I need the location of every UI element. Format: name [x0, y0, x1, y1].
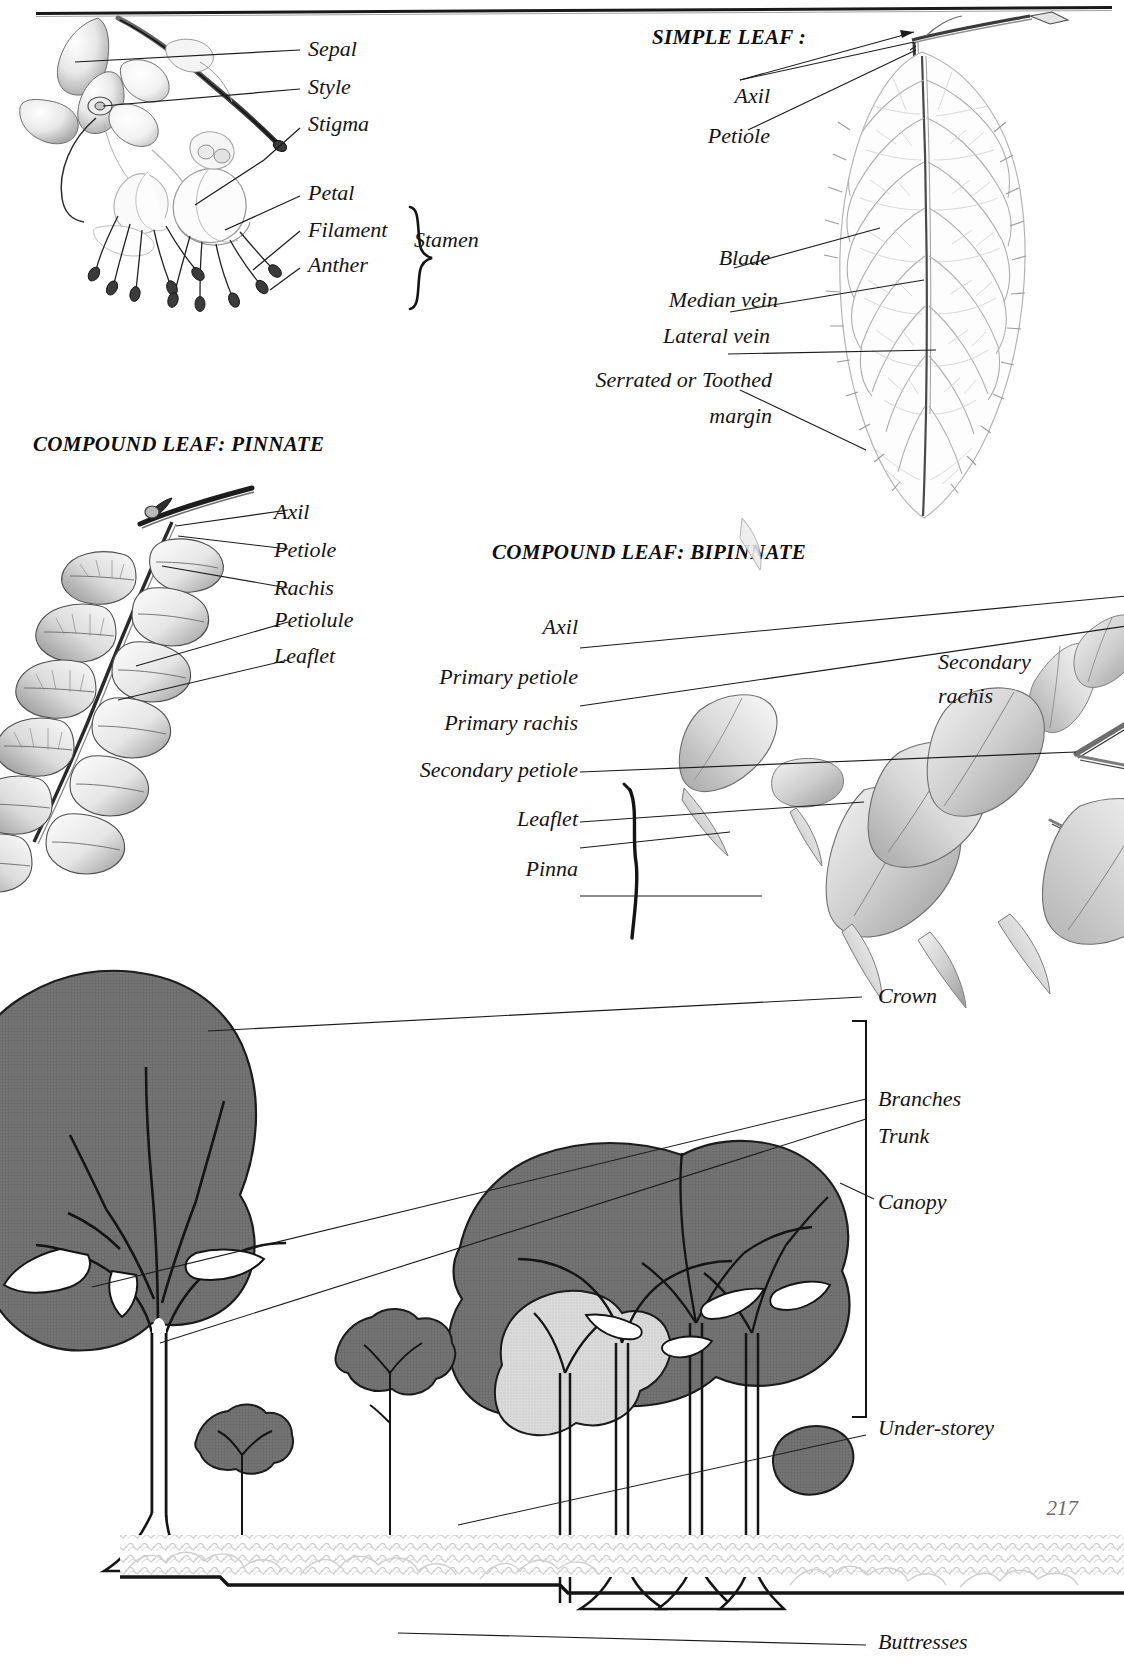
forest-profile-illustration — [0, 903, 1124, 1663]
tree-cluster-low-leaf-mass — [773, 1426, 853, 1494]
forest-label-buttresses: Buttresses — [878, 1630, 968, 1655]
bipinnate-label-leaflet: Leaflet — [517, 807, 578, 832]
forest-label-canopy: Canopy — [878, 1190, 946, 1215]
bipinnate-label-secondary-rachis-line1: Secondary — [938, 650, 1031, 675]
forest-label-crown: Crown — [878, 984, 937, 1009]
botany-plate-page: Sepal Style Stigma Petal Filament Anther… — [0, 0, 1124, 1663]
flower-illustration — [0, 0, 560, 330]
flower-label-sepal: Sepal — [308, 37, 357, 62]
flower-label-stamen-group: Stamen — [414, 228, 479, 253]
tree-cluster-light-crown — [495, 1291, 671, 1435]
simple-leaf-label-blade: Blade — [719, 246, 770, 271]
pinnate-label-petiolule: Petiolule — [274, 608, 353, 633]
simple-leaf-label-margin-line1: Serrated or Toothed — [596, 368, 772, 393]
pinnate-label-axil: Axil — [274, 500, 309, 525]
simple-leaf-label-petiole: Petiole — [708, 124, 770, 149]
compound-bipinnate-illustration — [564, 540, 1124, 960]
simple-leaf-twig — [912, 12, 1068, 43]
compound-pinnate-illustration — [0, 470, 420, 900]
simple-leaf-label-lateral-vein: Lateral vein — [663, 324, 770, 349]
bipinnate-label-primary-petiole: Primary petiole — [439, 665, 578, 690]
bipinnate-label-secondary-rachis-line2: rachis — [938, 684, 993, 709]
simple-leaf-label-margin-line2: margin — [709, 404, 772, 429]
flower-pendulous-group — [94, 132, 250, 256]
flower-label-stigma: Stigma — [308, 112, 369, 137]
bipinnate-label-pinna: Pinna — [525, 857, 578, 882]
bipinnate-label-primary-rachis: Primary rachis — [444, 711, 578, 736]
pinnate-label-leaflet: Leaflet — [274, 644, 335, 669]
forest-label-under-storey: Under-storey — [878, 1416, 994, 1441]
flower-label-petal: Petal — [308, 181, 354, 206]
forest-label-branches: Branches — [878, 1087, 961, 1112]
pinnate-label-rachis: Rachis — [274, 576, 334, 601]
flower-label-filament: Filament — [308, 218, 387, 243]
simple-leaf-blade — [840, 52, 1025, 518]
compound-pinnate-title: COMPOUND LEAF: PINNATE — [33, 432, 324, 457]
pinnate-twig — [140, 488, 254, 528]
forest-label-trunk: Trunk — [878, 1124, 929, 1149]
simple-leaf-label-median-vein: Median vein — [669, 288, 778, 313]
bipinnate-label-axil: Axil — [543, 615, 578, 640]
flower-label-anther: Anther — [308, 253, 368, 278]
under-storey-trees — [195, 1309, 455, 1573]
page-number: 217 — [1047, 1496, 1079, 1521]
flower-label-style: Style — [308, 75, 351, 100]
simple-leaf-label-axil: Axil — [735, 84, 770, 109]
stamen-brace-icon — [404, 205, 444, 315]
pinnate-label-petiole: Petiole — [274, 538, 336, 563]
tree-left — [0, 971, 286, 1571]
under-storey-tree-tall — [336, 1309, 456, 1573]
bipinnate-label-secondary-petiole: Secondary petiole — [420, 758, 578, 783]
canopy-bracket — [852, 1021, 866, 1417]
